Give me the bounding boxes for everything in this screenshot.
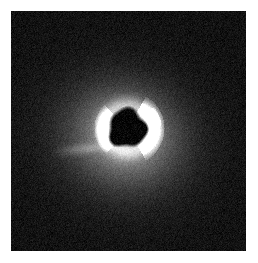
sky-image-canvas — [11, 11, 246, 251]
astronomical-image-plate — [11, 11, 246, 251]
figure-root — [0, 0, 258, 263]
